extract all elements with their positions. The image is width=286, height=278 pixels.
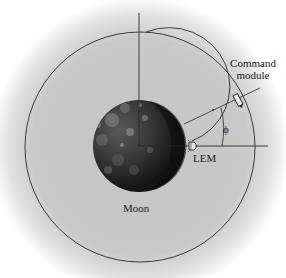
command-module-label-line2: module — [224, 69, 282, 81]
command-module-label-line1: Command — [224, 57, 282, 69]
orbit-diagram: Command module LEM Moon ϕ — [0, 0, 286, 278]
diagram-graphics — [0, 0, 286, 278]
command-module-label: Command module — [224, 57, 282, 81]
angle-phi-label: ϕ — [223, 124, 229, 135]
moon-label: Moon — [123, 203, 149, 214]
lem-label: LEM — [193, 153, 216, 164]
